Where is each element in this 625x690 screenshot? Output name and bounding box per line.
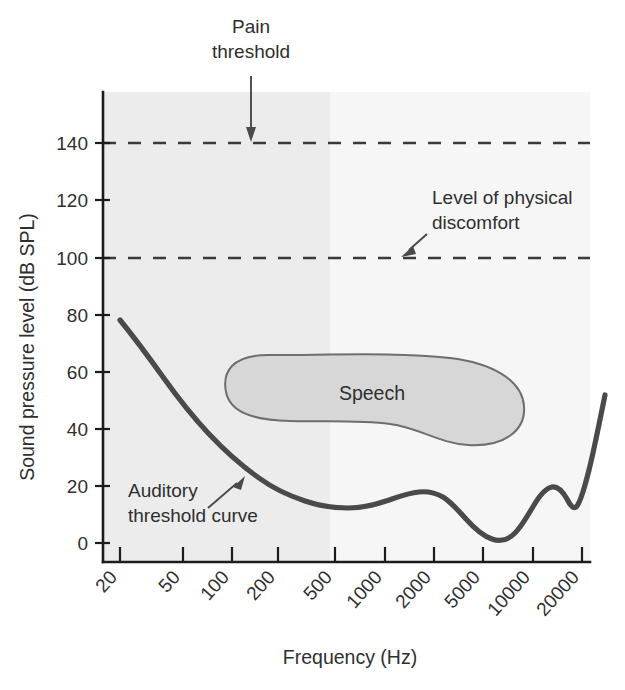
x-tick-label: 100: [196, 567, 233, 605]
x-axis-title: Frequency (Hz): [283, 646, 417, 668]
x-tick-label: 1000: [342, 567, 386, 612]
x-tick-label: 5000: [440, 567, 484, 612]
y-tick-label: 80: [67, 305, 88, 326]
x-tick-label: 500: [299, 567, 336, 605]
discomfort-label-line2: discomfort: [432, 212, 520, 233]
y-tick-label: 120: [56, 190, 88, 211]
x-tick-label: 2000: [391, 567, 435, 612]
y-tick-label: 0: [77, 533, 88, 554]
plot-background-fade: [330, 92, 590, 562]
discomfort-label-line1: Level of physical: [432, 187, 572, 208]
x-tick-label: 200: [242, 567, 279, 605]
x-tick-label: 50: [154, 567, 184, 597]
y-tick-label: 140: [56, 133, 88, 154]
y-tick-label: 100: [56, 248, 88, 269]
x-tick-label: 20: [91, 567, 121, 597]
y-tick-label: 40: [67, 419, 88, 440]
auditory-label-line1: Auditory: [128, 480, 198, 501]
pain-threshold-label-line1: Pain: [232, 16, 270, 37]
hearing-range-chart: Speech 140 120 100 80 60 40 20 0: [0, 0, 625, 690]
y-tick-label: 60: [67, 362, 88, 383]
x-tick-label: 20000: [532, 567, 583, 620]
y-axis-title: Sound pressure level (dB SPL): [16, 213, 38, 481]
auditory-label-line2: threshold curve: [128, 505, 258, 526]
pain-threshold-label-line2: threshold: [212, 41, 290, 62]
speech-region-label: Speech: [339, 382, 405, 404]
x-tick-label: 10000: [483, 567, 534, 620]
x-axis-tick-labels: 20 50 100 200 500 1000 2000 5000 10000 2…: [91, 567, 583, 620]
audiogram-figure: Speech 140 120 100 80 60 40 20 0: [0, 0, 625, 690]
y-axis-tick-labels: 140 120 100 80 60 40 20 0: [56, 133, 88, 554]
y-tick-label: 20: [67, 476, 88, 497]
